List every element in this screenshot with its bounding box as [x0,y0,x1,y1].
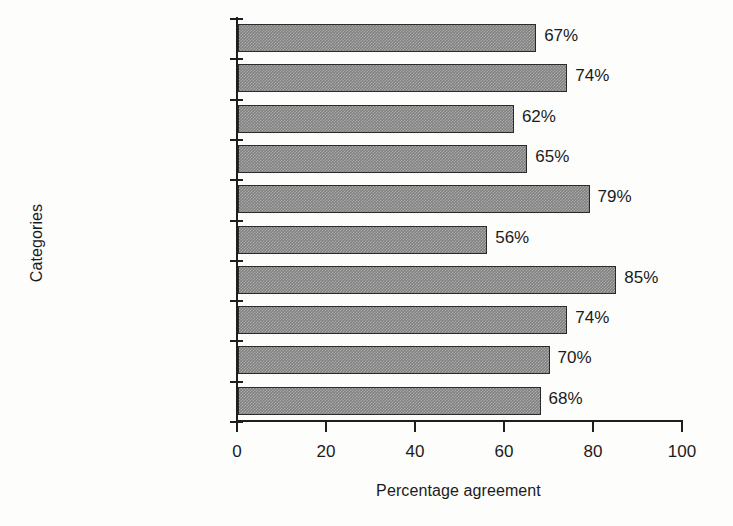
bar-row: Upper Arm56% [236,220,681,260]
x-axis-tick-label: 0 [197,442,277,462]
y-axis-tick [230,99,243,101]
bar-chart: Categories Action Category67%Activity74%… [0,0,733,526]
y-axis-tick [230,58,243,60]
bar-value-label: 74% [575,66,609,86]
bar-value-label: 56% [495,228,529,248]
bar [238,64,567,92]
y-axis-tick [230,139,243,141]
bar [238,145,527,173]
bar-value-label: 70% [558,348,592,368]
bar-value-label: 85% [624,268,658,288]
bar-value-label: 65% [535,147,569,167]
bar-row: Legs74% [236,300,681,340]
bar [238,306,567,334]
bar-value-label: 62% [522,107,556,127]
bar [238,346,550,374]
y-axis-tick [230,340,243,342]
bar-row: Activity74% [236,58,681,98]
bar [238,185,590,213]
y-axis-tick [230,18,243,20]
x-axis-tick-label: 80 [553,442,633,462]
bar-row: Lower Arm79% [236,179,681,219]
x-axis-tick [681,420,683,432]
bar-value-label: 79% [598,187,632,207]
bar [238,226,487,254]
x-axis-tick [325,420,327,432]
bar [238,387,541,415]
x-axis-title: Percentage agreement [236,482,681,500]
y-axis-tick [230,300,243,302]
y-axis-tick [230,220,243,222]
x-axis-tick [236,420,238,432]
bar-value-label: 68% [549,389,583,409]
bar-row: Wrist65% [236,139,681,179]
y-axis-title: Categories [28,93,50,393]
bar-row: Coupling62% [236,99,681,139]
x-axis-tick [503,420,505,432]
y-axis-tick [230,179,243,181]
x-axis-tick [414,420,416,432]
x-axis-tick [592,420,594,432]
bar-value-label: 74% [575,308,609,328]
x-axis-tick-label: 20 [286,442,366,462]
bar [238,266,616,294]
bar-value-label: 67% [544,26,578,46]
bar [238,24,536,52]
y-axis-tick [230,381,243,383]
bar-row: Load/Force85% [236,260,681,300]
x-axis-tick-label: 100 [642,442,722,462]
y-axis-tick [230,260,243,262]
x-axis-tick-label: 60 [464,442,544,462]
bar-row: Action Category67% [236,18,681,58]
bar-row: Neck70% [236,340,681,380]
bar [238,105,514,133]
x-axis-tick-label: 40 [375,442,455,462]
bar-row: Trunk68% [236,381,681,421]
